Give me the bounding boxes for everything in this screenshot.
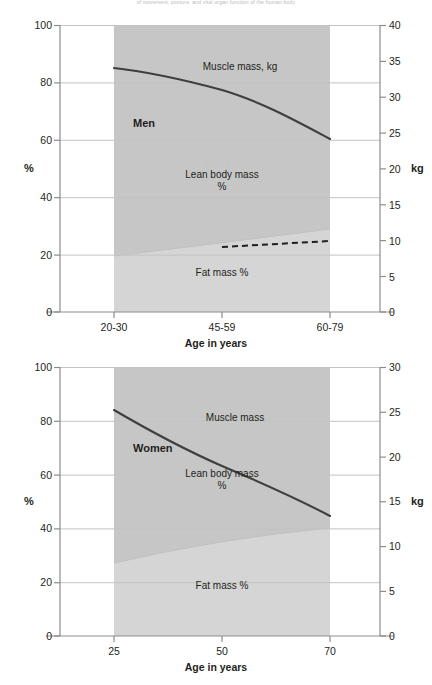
chart-men-x-ticks bbox=[114, 312, 330, 318]
chart-men-x-axis-title: Age in years bbox=[0, 337, 432, 349]
chart-women-right-tick-0: 0 bbox=[389, 630, 432, 642]
chart-women-left-tick-0: 0 bbox=[6, 630, 52, 642]
chart-men-right-tick-35: 35 bbox=[389, 55, 432, 67]
chart-women-right-tick-10: 10 bbox=[389, 540, 432, 552]
chart-women-left-tick-40: 40 bbox=[6, 522, 52, 534]
chart-women-right-tick-20: 20 bbox=[389, 451, 432, 463]
chart-men-right-tick-10: 10 bbox=[389, 235, 432, 247]
chart-men-x-tick-2: 45-59 bbox=[187, 321, 257, 333]
chart-men-left-axis-unit: % bbox=[24, 162, 34, 174]
chart-men-x-tick-3: 60-79 bbox=[295, 321, 365, 333]
chart-women-muscle-label: Muscle mass bbox=[180, 412, 290, 423]
chart-men-left-tick-40: 40 bbox=[6, 191, 52, 203]
chart-women-x-tick-3: 70 bbox=[295, 645, 365, 657]
chart-women-left-tick-80: 80 bbox=[6, 415, 52, 427]
chart-men-title: Men bbox=[133, 117, 183, 129]
chart-men-left-tick-60: 60 bbox=[6, 134, 52, 146]
chart-men-right-ticks bbox=[380, 26, 386, 313]
chart-women: 100 80 60 40 20 0 % 30 25 20 15 10 5 0 k… bbox=[0, 356, 432, 685]
chart-women-right-tick-30: 30 bbox=[389, 361, 432, 373]
chart-men-right-tick-0: 0 bbox=[389, 306, 432, 318]
chart-men-muscle-label: Muscle mass, kg bbox=[185, 61, 295, 72]
chart-men-lean-label-line1: Lean body mass bbox=[167, 169, 277, 180]
chart-women-x-tick-1: 25 bbox=[79, 645, 149, 657]
chart-men-right-tick-30: 30 bbox=[389, 91, 432, 103]
chart-men-left-tick-20: 20 bbox=[6, 249, 52, 261]
chart-men: IOM 100 80 60 40 20 0 % 40 35 30 25 20 1… bbox=[0, 14, 432, 354]
chart-men-right-tick-15: 15 bbox=[389, 199, 432, 211]
page-header-text: of movement, posture, and vital organ fu… bbox=[0, 0, 432, 7]
chart-men-right-axis-unit: kg bbox=[411, 162, 424, 174]
chart-men-right-tick-25: 25 bbox=[389, 127, 432, 139]
chart-men-left-ticks bbox=[54, 26, 60, 313]
chart-women-left-tick-20: 20 bbox=[6, 576, 52, 588]
chart-women-left-tick-100: 100 bbox=[6, 361, 52, 373]
chart-women-right-axis-unit: kg bbox=[411, 495, 424, 507]
chart-women-title: Women bbox=[133, 442, 193, 454]
chart-women-x-tick-2: 50 bbox=[187, 645, 257, 657]
chart-women-x-axis-title: Age in years bbox=[0, 661, 432, 673]
chart-women-left-ticks bbox=[54, 368, 60, 637]
chart-men-x-tick-1: 20-30 bbox=[79, 321, 149, 333]
chart-women-left-tick-60: 60 bbox=[6, 469, 52, 481]
chart-women-plot bbox=[0, 356, 432, 685]
chart-men-fat-label: Fat mass % bbox=[167, 267, 277, 278]
chart-women-right-ticks bbox=[380, 368, 386, 637]
chart-women-lean-label-line1: Lean body mass bbox=[167, 468, 277, 479]
chart-men-left-tick-80: 80 bbox=[6, 76, 52, 88]
chart-men-right-tick-40: 40 bbox=[389, 19, 432, 31]
chart-women-right-tick-5: 5 bbox=[389, 585, 432, 597]
chart-women-right-tick-25: 25 bbox=[389, 406, 432, 418]
chart-women-x-ticks bbox=[114, 636, 330, 642]
chart-women-bands bbox=[114, 367, 330, 636]
chart-women-left-axis-unit: % bbox=[24, 495, 34, 507]
chart-women-lean-label-line2: % bbox=[167, 480, 277, 491]
chart-men-lean-label-line2: % bbox=[167, 181, 277, 192]
chart-men-right-tick-5: 5 bbox=[389, 271, 432, 283]
chart-men-left-tick-100: 100 bbox=[6, 19, 52, 31]
chart-women-fat-label: Fat mass % bbox=[167, 580, 277, 591]
chart-men-left-tick-0: 0 bbox=[6, 306, 52, 318]
